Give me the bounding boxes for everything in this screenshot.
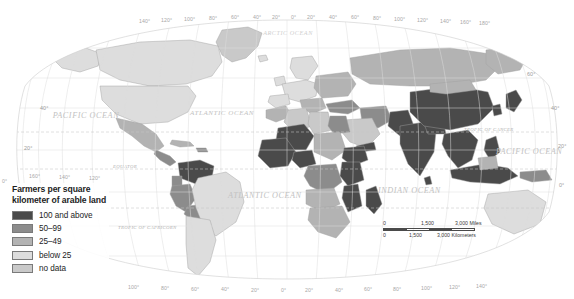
scale-seg-1 (407, 229, 430, 230)
legend-item-25-49[interactable]: 25–49 (12, 235, 106, 248)
legend-swatch-25-49 (12, 237, 33, 246)
legend-title: Farmers per square kilometer of arable l… (12, 184, 106, 205)
map-legend: Farmers per square kilometer of arable l… (12, 183, 109, 277)
legend-label-no-data: no data (39, 264, 66, 273)
legend-swatch-below-25 (12, 251, 33, 260)
scale-seg-0 (384, 229, 407, 230)
scale-bar-km-labels: 0 1,500 3,000 Kilometers (383, 232, 481, 240)
scale-miles-tick-1: 1,500 (421, 220, 434, 226)
scale-bar-miles-track (383, 228, 475, 231)
legend-swatch-100-and-above (12, 211, 33, 220)
scale-bar: 0 1,500 3,000 Miles 0 1,500 3,000 Kilome… (383, 220, 481, 240)
legend-item-below-25[interactable]: below 25 (12, 249, 106, 262)
country-new-zealand (552, 230, 564, 244)
scale-km-tick-2: 3,000 Kilometers (437, 232, 476, 238)
scale-miles-tick-0: 0 (383, 220, 386, 226)
legend-item-no-data[interactable]: no data (12, 262, 106, 275)
country-korea (492, 104, 502, 116)
legend-label-below-25: below 25 (39, 251, 71, 260)
country-borneo (478, 156, 498, 170)
scale-km-tick-0: 0 (383, 232, 386, 238)
country-ecuador (172, 176, 182, 186)
world-map: 140° 120° 100° 80° 60° 40° 20° 0° 20° 40… (0, 0, 574, 299)
legend-swatch-50-99 (12, 224, 33, 233)
legend-label-50-99: 50–99 (39, 224, 62, 233)
scale-miles-tick-2: 3,000 Miles (455, 220, 482, 226)
scale-seg-3 (452, 229, 474, 230)
legend-label-100-and-above: 100 and above (39, 211, 93, 220)
legend-swatch-no-data (12, 264, 33, 273)
scale-bar-miles-labels: 0 1,500 3,000 Miles (383, 220, 481, 227)
legend-label-25-49: 25–49 (39, 237, 62, 246)
legend-item-50-99[interactable]: 50–99 (12, 222, 106, 235)
scale-seg-2 (430, 229, 453, 230)
scale-km-tick-1: 1,500 (409, 232, 422, 238)
legend-item-100-and-above[interactable]: 100 and above (12, 208, 106, 221)
